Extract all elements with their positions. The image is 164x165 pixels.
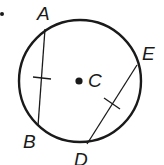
circle-diagram: A B E D C xyxy=(0,0,164,165)
label-e: E xyxy=(142,43,155,64)
list-bullet xyxy=(0,12,4,16)
label-b: B xyxy=(23,131,36,152)
label-a: A xyxy=(36,3,50,24)
center-point-c xyxy=(75,77,82,84)
label-d: D xyxy=(74,149,88,165)
congruence-tick-ed xyxy=(104,98,120,109)
label-c: C xyxy=(88,70,102,91)
